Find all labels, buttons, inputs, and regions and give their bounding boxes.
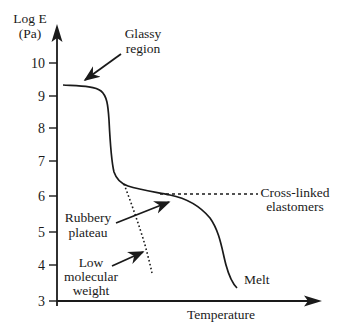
tick-label-3: 3	[38, 294, 45, 309]
lowmw-label-line3: weight	[73, 283, 110, 298]
lowmw-label-line1: Low	[79, 255, 104, 270]
diagram-canvas: 10 9 8 7 6 5 4 3 Log E (Pa) Temperature …	[0, 0, 342, 336]
x-axis-title: Temperature	[187, 307, 255, 322]
glassy-arrow-icon	[85, 54, 121, 80]
rubbery-label-line1: Rubbery	[65, 210, 112, 225]
lowmw-arrow-icon	[112, 252, 143, 266]
glassy-label-line1: Glassy	[125, 26, 162, 41]
tick-label-7: 7	[38, 154, 45, 169]
y-axis	[49, 24, 63, 306]
tick-label-4: 4	[38, 258, 45, 273]
y-axis-title-line2: (Pa)	[19, 26, 42, 41]
tick-label-5: 5	[38, 225, 45, 240]
modulus-temperature-diagram: 10 9 8 7 6 5 4 3 Log E (Pa) Temperature …	[0, 0, 342, 336]
tick-label-6: 6	[38, 189, 45, 204]
tick-label-8: 8	[38, 121, 45, 136]
rubbery-label-line2: plateau	[69, 225, 108, 240]
cross-linked-label-line1: Cross-linked	[261, 185, 330, 200]
y-axis-title-line1: Log E	[13, 11, 46, 26]
tick-label-9: 9	[38, 89, 45, 104]
melt-label: Melt	[244, 272, 270, 287]
lowmw-label-line2: molecular	[64, 269, 118, 284]
y-tick-labels: 10 9 8 7 6 5 4 3	[31, 56, 45, 309]
rubbery-arrow-icon	[116, 202, 169, 223]
tick-label-10: 10	[31, 56, 45, 71]
cross-linked-label-line2: elastomers	[266, 199, 324, 214]
glassy-label-line2: region	[126, 41, 161, 56]
